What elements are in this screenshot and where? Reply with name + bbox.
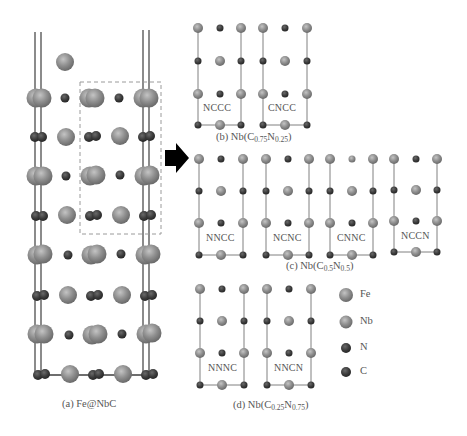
structure-label: CNCC xyxy=(268,102,296,113)
structure-label: CNNC xyxy=(337,232,366,243)
arrow-right-icon xyxy=(165,143,189,173)
legend-label-fe: Fe xyxy=(360,288,371,299)
panel-c-structures xyxy=(194,154,442,260)
panel-d-structures xyxy=(195,284,316,390)
structure-label: NNCN xyxy=(274,362,303,373)
structure-label: NNNC xyxy=(208,362,237,373)
structure-label: NCCN xyxy=(401,230,430,241)
nb-atom-icon xyxy=(340,316,353,329)
panel-b-caption: (b) Nb(C0.75N0.25) xyxy=(216,131,292,144)
panel-a-structure xyxy=(27,30,162,383)
structure-label: NCCC xyxy=(203,102,231,113)
panel-b-structures xyxy=(193,23,312,130)
legend-markers xyxy=(339,288,353,377)
legend-label-n: N xyxy=(360,341,368,352)
fe-atom-icon xyxy=(339,288,353,302)
c-atom-icon xyxy=(341,367,351,377)
n-atom-icon xyxy=(341,343,351,353)
panel-c-caption: (c) Nb(C0.5N0.5) xyxy=(286,260,353,273)
legend-label-nb: Nb xyxy=(360,315,373,326)
legend-label-c: C xyxy=(360,365,367,376)
structure-label: NNCC xyxy=(206,232,235,243)
panel-d-caption: (d) Nb(C0.25N0.75) xyxy=(233,399,309,412)
panel-a-caption: (a) Fe@NbC xyxy=(62,398,116,409)
structure-label: NCNC xyxy=(273,232,302,243)
